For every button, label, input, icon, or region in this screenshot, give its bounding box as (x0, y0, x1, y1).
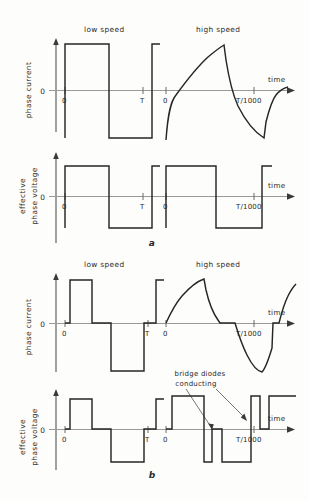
ylabel-phase-current-a: phase current (24, 62, 33, 119)
wave-b-voltage-low (65, 399, 164, 462)
waveform-figure: low speed high speed phase current 0 tim… (0, 0, 309, 500)
panel-b-row-voltage: bridge diodes conducting effective phase… (18, 370, 296, 480)
ticklabel-T1000-a1: T/1000 (235, 97, 262, 105)
x-axis-arrow-a1 (287, 87, 295, 93)
ticklabel-origin-b1: 0 (62, 330, 67, 338)
ticklabel-origin-a1-high: 0 (163, 97, 168, 105)
annotation-leader-right (216, 389, 245, 418)
ylabel-phase-voltage-a: phase voltage (30, 167, 39, 225)
ticklabel-T-a1: T (139, 97, 145, 105)
zero-label-a1: 0 (40, 87, 45, 96)
ticklabel-T1000-a2: T/1000 (235, 203, 262, 211)
heading-high-speed-a1: high speed (196, 25, 240, 34)
y-axis-arrow-a1 (53, 38, 59, 45)
annotation-leader-left (186, 389, 211, 427)
panel-a-row-voltage: effective phase voltage 0 time 0 T 0 T/1… (18, 152, 295, 248)
panel-letter-b: b (149, 470, 156, 480)
ticklabel-T-b2: T (144, 436, 150, 444)
ticklabel-T1000-b2: T/1000 (235, 436, 262, 444)
y-axis-arrow-b2 (53, 389, 59, 396)
wave-a-current-high (166, 45, 288, 140)
ticklabel-origin-b2: 0 (62, 436, 67, 444)
annotation-line-1: bridge diodes (174, 370, 225, 378)
ticklabel-origin-b1-high: 0 (163, 330, 168, 338)
x-axis-arrow-b2 (287, 426, 295, 432)
time-label-b2: time (268, 414, 286, 423)
ylabel-effective-a: effective (18, 178, 27, 214)
ylabel-effective-b: effective (18, 419, 27, 455)
ticklabel-origin-b2-high: 0 (163, 436, 168, 444)
ylabel-phase-voltage-b: phase voltage (30, 408, 39, 466)
x-axis-arrow-a2 (287, 193, 295, 199)
y-axis-arrow-a2 (53, 152, 59, 159)
zero-label-b1: 0 (40, 320, 45, 329)
panel-letter-a: a (149, 238, 155, 248)
wave-b-current-high (166, 279, 296, 372)
y-axis-arrow-b1 (53, 273, 59, 280)
ticklabel-T-b1: T (144, 330, 150, 338)
time-label-a2: time (268, 181, 286, 190)
heading-low-speed-b1: low speed (84, 260, 124, 269)
panel-b-row-current: low speed high speed phase current 0 tim… (24, 260, 296, 372)
wave-b-current-low (65, 280, 164, 371)
heading-low-speed-a1: low speed (84, 25, 124, 34)
panel-a-row-current: low speed high speed phase current 0 tim… (24, 25, 295, 140)
figure-canvas: low speed high speed phase current 0 tim… (0, 0, 309, 500)
annotation-line-2: conducting (175, 380, 216, 388)
time-label-a1: time (268, 75, 286, 84)
zero-label-b2: 0 (40, 426, 45, 435)
heading-high-speed-b1: high speed (196, 260, 240, 269)
ticklabel-T-a2: T (139, 203, 145, 211)
x-axis-arrow-b1 (287, 320, 295, 326)
ylabel-phase-current-b: phase current (24, 299, 33, 356)
zero-label-a2: 0 (40, 193, 45, 202)
